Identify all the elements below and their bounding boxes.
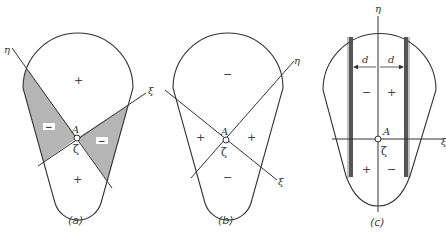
point-a-label: A [382,126,390,137]
sign-bottom: + [73,173,82,186]
point-a-label: A [220,126,228,137]
strip-left [349,37,353,177]
caption-c: (c) [370,216,385,229]
sign-right: + [247,131,256,144]
eta-label: η [4,44,10,55]
sign-lower-left: + [362,163,371,176]
shear-center-point [223,137,229,143]
cross-section-outline [323,33,436,206]
sign-right: − [98,136,106,146]
sign-top: + [74,74,83,87]
eta-axis [12,48,112,188]
xi-label: ξ [278,176,284,187]
sign-bottom: − [223,171,232,184]
eta-axis [191,61,294,178]
zeta-label: ζ [381,145,387,158]
point-a-label: A [71,124,79,135]
xi-label: ξ [441,136,446,147]
sign-top: − [223,68,232,81]
caption-b: (b) [218,214,234,227]
eta-label: η [294,55,300,66]
zeta-label: ζ [73,143,79,156]
shear-center-point [375,136,381,142]
sign-upper-right: + [387,86,396,99]
dimension-right-label: d [388,54,394,65]
panel-c: d d η ξ A ζ − + + − (c) [323,3,446,229]
zeta-label: ζ [221,146,227,159]
sign-left: + [196,131,205,144]
sign-lower-right: − [387,163,396,176]
sign-left: − [45,122,53,132]
caption-a: (a) [68,214,83,227]
strip-right [404,37,408,177]
shear-center-point [74,135,80,141]
panel-a: η ξ A ζ + + − − (a) [0,33,160,234]
dimension-left-label: d [362,54,368,65]
xi-label: ξ [148,85,154,96]
warping-function-figure: η ξ A ζ + + − − (a) η ξ A ζ − − + + (b) [0,0,446,234]
eta-label: η [375,3,381,14]
panel-b: η ξ A ζ − − + + (b) [165,33,300,227]
sign-upper-left: − [362,86,371,99]
